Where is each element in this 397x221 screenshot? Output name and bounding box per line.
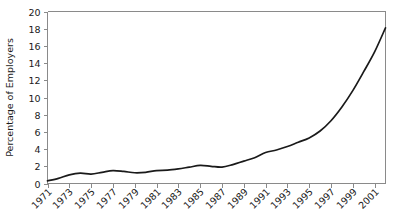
- y-axis-tick-label: 8: [34, 110, 40, 121]
- line-chart: 02468101214161820 1971197319751977197919…: [0, 0, 397, 221]
- chart-canvas: 02468101214161820 1971197319751977197919…: [0, 0, 397, 221]
- y-axis-tick-label: 2: [34, 161, 40, 172]
- y-axis-tick-label: 12: [28, 75, 40, 86]
- y-axis-tick-label: 18: [28, 24, 40, 35]
- y-axis-tick-label: 0: [34, 179, 40, 190]
- y-axis-tick-label: 4: [34, 144, 40, 155]
- y-axis-tick-label: 10: [28, 93, 40, 104]
- y-axis-tick-label: 6: [34, 127, 40, 138]
- y-axis-tick-label: 16: [28, 41, 40, 52]
- y-axis-title: Percentage of Employers: [4, 38, 15, 157]
- y-axis-tick-label: 14: [28, 58, 40, 69]
- y-axis-tick-label: 20: [28, 7, 40, 18]
